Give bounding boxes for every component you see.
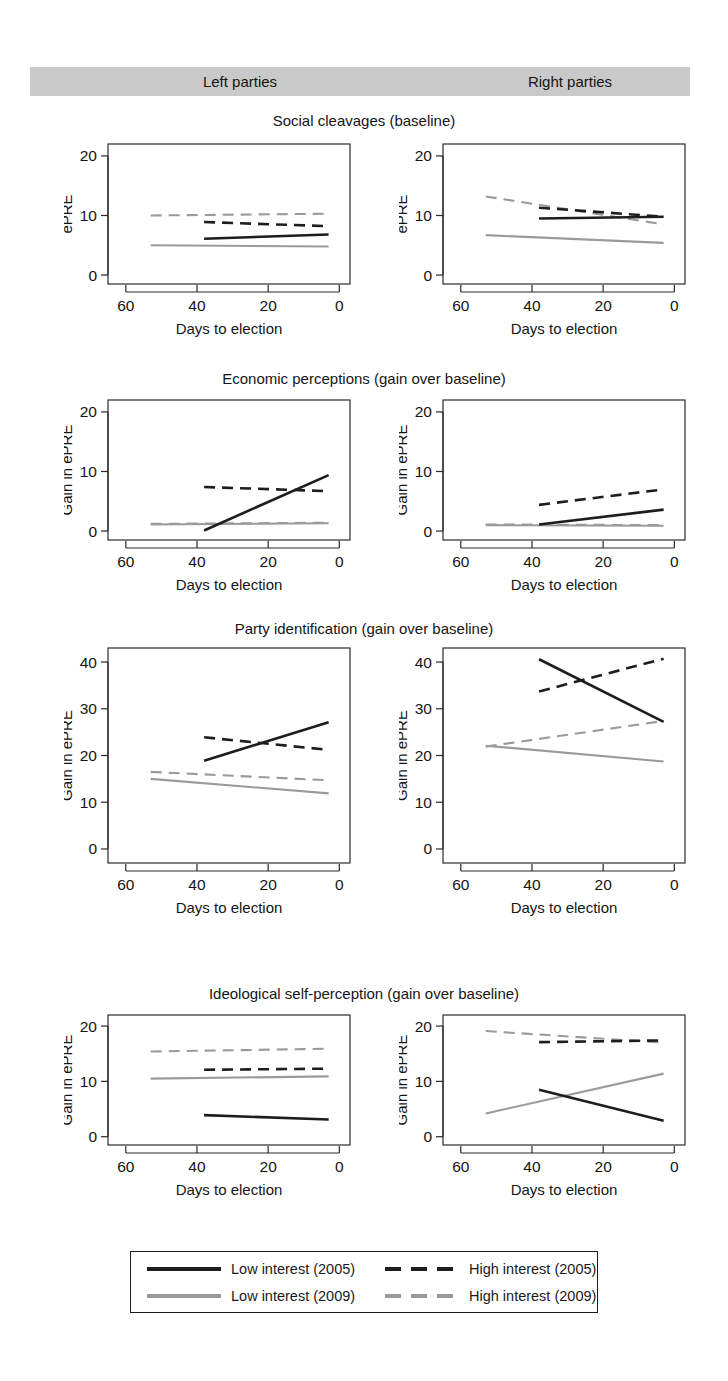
series-line (486, 1074, 664, 1114)
series-line (204, 1069, 329, 1070)
legend-row: Low interest (2005) High interest (2005) (131, 1256, 599, 1282)
x-axis-label: Days to election (443, 1181, 685, 1198)
y-axis-label: ePRE (64, 194, 75, 233)
series-line (151, 1076, 329, 1078)
legend-swatch-low2009 (147, 1294, 221, 1298)
svg-text:0: 0 (423, 523, 432, 540)
series-line (204, 222, 329, 226)
svg-text:0: 0 (335, 1158, 344, 1175)
y-axis-label: Gain in ePRE (399, 1035, 410, 1126)
y-axis-label: Gain in ePRE (399, 425, 410, 516)
series-line (539, 1090, 664, 1121)
svg-text:20: 20 (260, 876, 278, 893)
legend-swatch-high2009 (385, 1294, 459, 1298)
series-line (151, 772, 329, 780)
svg-text:40: 40 (523, 553, 541, 570)
svg-text:0: 0 (88, 1128, 97, 1145)
series-line (204, 1115, 329, 1119)
legend-label-high2009: High interest (2009) (469, 1283, 596, 1309)
svg-text:40: 40 (523, 1158, 541, 1175)
series-line (486, 235, 664, 243)
svg-text:20: 20 (80, 403, 98, 420)
y-axis-label: ePRE (399, 194, 410, 233)
series-line (539, 489, 664, 504)
plot-right-row2: 010206040200Gain in ePRE (399, 394, 691, 586)
svg-text:10: 10 (80, 207, 98, 224)
panel-title: Social cleavages (baseline) (0, 112, 728, 129)
svg-text:0: 0 (670, 1158, 679, 1175)
plot-left-row1: 010206040200ePRE (64, 138, 356, 330)
facet-label-right: Right parties (450, 71, 690, 93)
x-axis-label: Days to election (108, 1181, 350, 1198)
plot-left-row3: 0102030406040200Gain in ePRE (64, 642, 356, 909)
svg-text:20: 20 (80, 147, 98, 164)
series-line (486, 746, 664, 762)
svg-text:10: 10 (80, 463, 98, 480)
svg-text:20: 20 (415, 1018, 433, 1035)
svg-text:20: 20 (415, 147, 433, 164)
x-axis-label: Days to election (443, 576, 685, 593)
facet-label-left: Left parties (30, 71, 450, 93)
y-axis-label: Gain in ePRE (64, 710, 75, 801)
legend-row: Low interest (2009) High interest (2009) (131, 1283, 599, 1309)
series-line (539, 1040, 664, 1042)
svg-text:10: 10 (415, 1073, 433, 1090)
svg-text:20: 20 (260, 1158, 278, 1175)
x-axis-label: Days to election (108, 576, 350, 593)
svg-text:10: 10 (415, 463, 433, 480)
y-axis-label: Gain in ePRE (64, 425, 75, 516)
series-line (151, 214, 329, 216)
legend-label-high2005: High interest (2005) (469, 1256, 596, 1282)
svg-text:10: 10 (80, 794, 98, 811)
x-axis-label: Days to election (108, 899, 350, 916)
y-axis-label: Gain in ePRE (399, 710, 410, 801)
series-line (486, 721, 664, 747)
svg-text:40: 40 (415, 654, 433, 671)
svg-text:20: 20 (260, 297, 278, 314)
panel-title: Economic perceptions (gain over baseline… (0, 370, 728, 387)
series-line (204, 737, 329, 750)
series-line (151, 245, 329, 246)
svg-text:20: 20 (260, 553, 278, 570)
x-axis-label: Days to election (108, 320, 350, 337)
series-line (539, 510, 664, 525)
svg-text:10: 10 (80, 1073, 98, 1090)
svg-text:60: 60 (117, 1158, 135, 1175)
series-line (151, 1049, 329, 1052)
series-line (151, 779, 329, 793)
svg-text:20: 20 (595, 553, 613, 570)
svg-text:20: 20 (415, 747, 433, 764)
svg-text:10: 10 (415, 207, 433, 224)
svg-text:60: 60 (117, 876, 135, 893)
svg-text:20: 20 (80, 1018, 98, 1035)
svg-text:40: 40 (188, 1158, 206, 1175)
svg-text:0: 0 (423, 840, 432, 857)
panel-title: Ideological self-perception (gain over b… (0, 985, 728, 1002)
svg-text:0: 0 (423, 267, 432, 284)
svg-text:20: 20 (80, 747, 98, 764)
svg-text:0: 0 (335, 553, 344, 570)
svg-text:0: 0 (423, 1128, 432, 1145)
svg-text:60: 60 (452, 297, 470, 314)
plot-right-row4: 010206040200Gain in ePRE (399, 1009, 691, 1191)
series-line (204, 487, 329, 491)
svg-text:20: 20 (595, 876, 613, 893)
svg-text:30: 30 (415, 700, 433, 717)
svg-text:40: 40 (188, 297, 206, 314)
svg-text:0: 0 (670, 876, 679, 893)
figure-root: Left parties Right parties Social cleava… (0, 0, 728, 1381)
svg-text:0: 0 (335, 297, 344, 314)
svg-text:10: 10 (415, 794, 433, 811)
svg-text:40: 40 (188, 876, 206, 893)
legend-swatch-high2005 (385, 1267, 459, 1271)
svg-text:20: 20 (595, 1158, 613, 1175)
panel-title: Party identification (gain over baseline… (0, 620, 728, 637)
svg-text:60: 60 (452, 876, 470, 893)
svg-text:60: 60 (117, 553, 135, 570)
legend-swatch-low2005 (147, 1267, 221, 1271)
plot-right-row3: 0102030406040200Gain in ePRE (399, 642, 691, 909)
x-axis-label: Days to election (443, 320, 685, 337)
svg-text:40: 40 (523, 297, 541, 314)
svg-text:40: 40 (188, 553, 206, 570)
svg-text:0: 0 (88, 523, 97, 540)
